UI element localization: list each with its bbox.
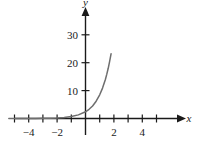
exponential-function-graph: −4 −2 2 4 10 20 30 x y bbox=[0, 0, 197, 155]
x-axis-label: x bbox=[186, 112, 192, 124]
y-tick-label-20: 20 bbox=[67, 57, 79, 69]
x-axis-arrow-icon bbox=[177, 115, 186, 123]
y-tick-label-30: 30 bbox=[67, 29, 79, 41]
x-tick-label--2: −2 bbox=[51, 126, 63, 138]
x-tick-label-2: 2 bbox=[111, 126, 117, 138]
x-tick-label--4: −4 bbox=[23, 126, 35, 138]
figure-container: −4 −2 2 4 10 20 30 x y bbox=[0, 0, 197, 155]
y-tick-label-10: 10 bbox=[67, 85, 79, 97]
y-axis-arrow-icon bbox=[82, 7, 90, 16]
exponential-curve bbox=[9, 54, 111, 119]
x-tick-label-4: 4 bbox=[140, 126, 146, 138]
y-axis-label: y bbox=[82, 0, 88, 8]
